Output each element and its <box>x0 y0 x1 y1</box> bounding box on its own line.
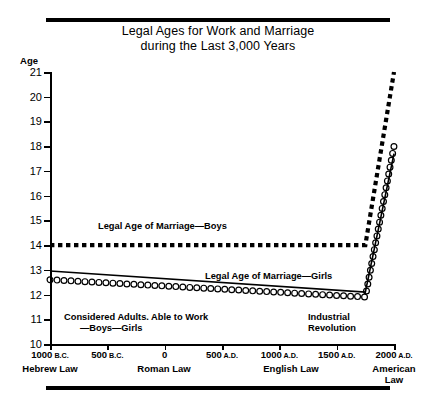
girls-marker <box>215 286 221 292</box>
girls-marker <box>61 278 67 284</box>
x-tick-label-2000: 2000 A.D. <box>375 349 412 360</box>
y-tick-label-19: 19 <box>30 116 42 127</box>
girls-marker <box>348 293 354 299</box>
x-tick-era: A.D. <box>222 351 238 360</box>
girls-marker <box>47 277 53 283</box>
x-tick-label-1000: 1000 A.D. <box>261 349 298 360</box>
law-label-line: English Law <box>263 364 318 375</box>
girls-marker <box>96 279 102 285</box>
x-axis-labels: 1000 B.C.500 B.C.0500 A.D.1000 A.D.1500 … <box>0 349 436 389</box>
x-tick-number: 500 <box>206 349 222 360</box>
y-tick-label-11: 11 <box>31 314 42 325</box>
y-tick-label-16: 16 <box>30 191 42 202</box>
girls-marker <box>278 289 284 295</box>
annotation-industrial-line1: Industrial <box>308 312 356 323</box>
x-tick-number: 500 <box>91 349 107 360</box>
girls-marker <box>257 288 263 294</box>
y-tick-label-13: 13 <box>30 265 42 276</box>
girls-marker <box>54 277 60 283</box>
annotation-considered-adults: Considered Adults. Able to Work —Boys—Gi… <box>64 312 208 333</box>
girls-marker <box>201 285 207 291</box>
girls-marker <box>117 281 123 287</box>
chart-title: Legal Ages for Work and Marriage during … <box>0 24 436 53</box>
annotation-adults-line1: Considered Adults. Able to Work <box>64 312 208 323</box>
series-marriage-boys <box>50 72 394 245</box>
girls-marker <box>285 290 291 296</box>
girls-marker <box>124 281 130 287</box>
x-tick-era: B.C. <box>107 351 123 360</box>
y-tick-label-17: 17 <box>30 166 42 177</box>
girls-marker <box>159 283 165 289</box>
girls-marker <box>131 281 137 287</box>
girls-marker <box>391 144 397 150</box>
girls-marker <box>306 291 312 297</box>
annotation-marriage-girls: Legal Age of Marriage—Girls <box>205 271 332 282</box>
girls-marker <box>152 283 158 289</box>
girls-marker <box>103 280 109 286</box>
y-tick-label-18: 18 <box>30 141 42 152</box>
x-tick-number: 2000 <box>375 349 396 360</box>
annotation-industrial-line2: Revolution <box>308 323 356 334</box>
girls-marker <box>264 289 270 295</box>
girls-marker <box>68 278 74 284</box>
x-tick-era: A.D. <box>282 351 298 360</box>
y-tick-label-15: 15 <box>30 215 42 226</box>
girls-marker <box>222 286 228 292</box>
series-layer <box>50 72 394 344</box>
girls-marker <box>110 280 116 286</box>
law-label-0: Hebrew Law <box>22 364 77 375</box>
chart-title-line1: Legal Ages for Work and Marriage <box>0 24 436 39</box>
annotation-industrial-revolution: Industrial Revolution <box>308 312 356 333</box>
y-tick-label-21: 21 <box>30 67 42 78</box>
x-tick-era: B.C. <box>52 351 68 360</box>
law-label-1: Roman Law <box>137 364 190 375</box>
girls-marker <box>82 279 88 285</box>
girls-marker <box>145 282 151 288</box>
plot-area: 101112131415161718192021 Legal Age of Ma… <box>50 72 394 344</box>
law-label-line: Law <box>372 375 415 386</box>
girls-marker <box>229 287 235 293</box>
law-label-line: American <box>372 364 415 375</box>
girls-marker <box>299 291 305 297</box>
y-tick-label-20: 20 <box>30 92 42 103</box>
x-tick-label-1500: 1500 A.D. <box>318 349 355 360</box>
y-tick-label-14: 14 <box>30 240 42 251</box>
x-tick-era: A.D. <box>397 351 413 360</box>
x-tick-label-500: 500 A.D. <box>206 349 238 360</box>
top-rule <box>46 18 390 22</box>
girls-marker <box>243 288 249 294</box>
law-label-3: AmericanLaw <box>372 364 415 385</box>
girls-marker <box>320 292 326 298</box>
y-tick-label-12: 12 <box>30 290 42 301</box>
x-tick-label-0: 0 <box>162 349 167 360</box>
annotation-adults-line2: —Boys—Girls <box>64 323 208 334</box>
girls-marker <box>313 291 319 297</box>
chart-figure: Legal Ages for Work and Marriage during … <box>0 0 436 408</box>
girls-marker <box>173 284 179 290</box>
girls-marker <box>362 294 368 300</box>
law-label-line: Hebrew Law <box>22 364 77 375</box>
girls-marker <box>138 282 144 288</box>
girls-marker <box>355 294 361 300</box>
girls-marker <box>236 287 242 293</box>
girls-marker <box>180 284 186 290</box>
girls-marker <box>250 288 256 294</box>
girls-marker <box>194 285 200 291</box>
girls-marker <box>89 279 95 285</box>
x-tick-number: 1000 <box>261 349 282 360</box>
law-label-2: English Law <box>263 364 318 375</box>
girls-marker <box>390 151 396 157</box>
girls-marker <box>292 290 298 296</box>
x-tick-number: 1500 <box>318 349 339 360</box>
x-tick-label--500: 500 B.C. <box>91 349 123 360</box>
girls-marker <box>187 284 193 290</box>
y-axis-title: Age <box>20 55 38 66</box>
x-tick-number: 1000 <box>31 349 52 360</box>
girls-marker <box>341 293 347 299</box>
girls-marker <box>75 278 81 284</box>
annotation-marriage-boys: Legal Age of Marriage—Boys <box>98 221 227 232</box>
girls-marker <box>327 292 333 298</box>
chart-title-line2: during the Last 3,000 Years <box>0 39 436 54</box>
x-tick-number: 0 <box>162 349 167 360</box>
girls-marker <box>208 286 214 292</box>
